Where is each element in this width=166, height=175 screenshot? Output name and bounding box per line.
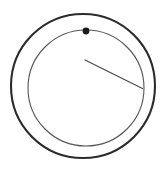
figure-container — [0, 0, 166, 175]
circle-diagram-svg — [0, 0, 166, 175]
marker-dot — [83, 28, 90, 35]
